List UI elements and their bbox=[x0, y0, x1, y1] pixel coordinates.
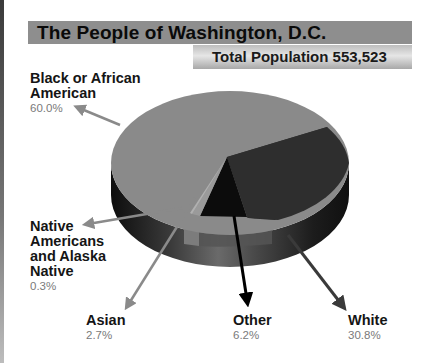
label-text: Asian bbox=[86, 313, 126, 328]
label-text: Black or African bbox=[30, 71, 141, 86]
label-native-americans: Native Americans and Alaska Native 0.3% bbox=[30, 219, 106, 293]
label-percent: 30.8% bbox=[348, 328, 387, 342]
label-text: and Alaska bbox=[30, 249, 106, 264]
label-percent: 0.3% bbox=[30, 279, 106, 293]
label-text: Native bbox=[30, 264, 106, 279]
arrow-white bbox=[288, 235, 342, 305]
label-asian: Asian 2.7% bbox=[86, 313, 126, 342]
label-percent: 60.0% bbox=[30, 101, 141, 115]
label-text: American bbox=[30, 86, 141, 101]
label-text: Other bbox=[233, 313, 272, 328]
pie-chart bbox=[0, 0, 424, 363]
label-text: Native bbox=[30, 219, 106, 234]
label-percent: 2.7% bbox=[86, 328, 126, 342]
label-text: White bbox=[348, 313, 387, 328]
label-text: Americans bbox=[30, 234, 106, 249]
label-white: White 30.8% bbox=[348, 313, 387, 342]
label-black-african-american: Black or African American 60.0% bbox=[30, 71, 141, 115]
label-other: Other 6.2% bbox=[233, 313, 272, 342]
label-percent: 6.2% bbox=[233, 328, 272, 342]
